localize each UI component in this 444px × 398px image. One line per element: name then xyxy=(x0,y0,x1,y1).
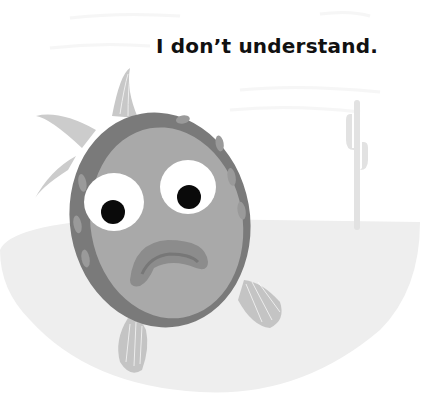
caption-text: I don’t understand. xyxy=(156,34,378,58)
background-texture xyxy=(50,12,380,112)
left-eye xyxy=(84,173,144,231)
fin-top xyxy=(112,68,138,118)
book-page: I don’t understand. xyxy=(0,0,444,398)
fish-illustration xyxy=(0,0,444,398)
cactus-icon xyxy=(346,100,368,230)
right-eye xyxy=(160,160,216,214)
